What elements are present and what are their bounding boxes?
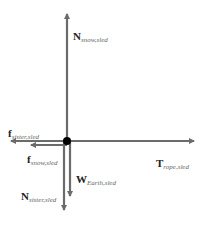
label-w-earth-subscript: Earth,sled bbox=[87, 179, 116, 187]
label-f-snow: fsnow,sled bbox=[27, 150, 58, 167]
label-n-snow: Nsnow,sled bbox=[73, 27, 108, 44]
label-n-snow-subscript: snow,sled bbox=[81, 36, 108, 44]
label-n-sister-subscript: sister,sled bbox=[29, 196, 56, 204]
label-t-rope-subscript: rope,sled bbox=[163, 163, 189, 171]
label-f-sister-subscript: sister,sled bbox=[12, 133, 39, 141]
label-f-snow-subscript: snow,sled bbox=[31, 159, 58, 167]
label-n-sister-symbol: N bbox=[21, 190, 29, 202]
sled-point bbox=[63, 137, 71, 145]
label-w-earth-symbol: W bbox=[76, 173, 87, 185]
label-n-snow-symbol: N bbox=[73, 30, 81, 42]
label-t-rope: Trope,sled bbox=[156, 154, 189, 171]
label-f-sister: fsister,sled bbox=[8, 124, 39, 141]
label-w-earth: WEarth,sled bbox=[76, 170, 116, 187]
label-n-sister: Nsister,sled bbox=[21, 187, 56, 204]
